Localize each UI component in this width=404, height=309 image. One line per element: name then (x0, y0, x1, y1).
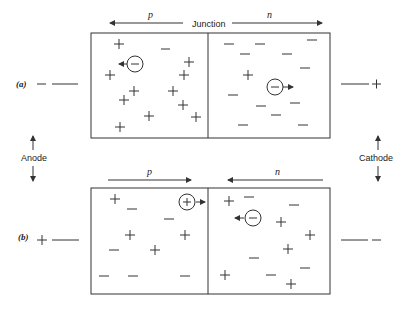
junction-label: Junction (192, 19, 226, 29)
panel-b: (b) (18, 188, 381, 294)
panel-b-tag: (b) (18, 232, 29, 242)
panel-b-terminals (37, 235, 381, 245)
p-label: p (147, 9, 153, 20)
panel-a-header: p Junction n (110, 9, 322, 29)
panel-b-p-charges (99, 194, 190, 276)
panel-a-terminals (37, 80, 381, 89)
panel-a-n-charges (224, 40, 317, 125)
panel-b-header: p n (108, 166, 323, 180)
panel-a-p-charges (105, 39, 201, 132)
cathode-label: Cathode (359, 153, 393, 163)
pn-junction-diagram: p Junction n (a) (0, 0, 404, 309)
p-label-b: p (146, 166, 152, 177)
diagram-svg: p Junction n (a) (0, 0, 404, 309)
anode-label: Anode (21, 153, 47, 163)
n-label-b: n (275, 166, 280, 177)
panel-a: (a) (16, 33, 381, 138)
n-label: n (267, 9, 272, 20)
panel-b-n-charges (220, 196, 315, 289)
panel-a-tag: (a) (16, 79, 27, 89)
side-labels: Anode Cathode (21, 136, 393, 181)
